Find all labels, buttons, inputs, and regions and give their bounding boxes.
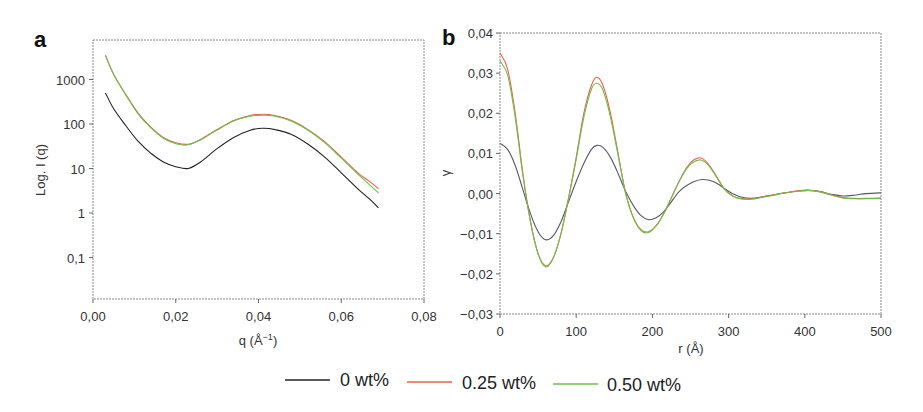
x-tick-label: 0,08 [411,309,436,324]
y-tick-label: 0,1 [67,251,85,266]
x-tick-label: 100 [565,324,587,339]
y-tick-label: 1000 [56,73,85,88]
x-tick-label: 0,00 [80,309,105,324]
legend-item-025wt: 0.25 wt% [407,373,536,393]
panel-b: b 0,040,030,020,010,00−0,01−0,02−0,03 01… [438,25,892,356]
x-tick-label: 200 [642,324,664,339]
legend-label-050wt: 0.50 wt% [607,375,681,395]
legend-item-0wt: 0 wt% [285,370,389,390]
y-tick-label: 10 [71,162,85,177]
series-line-2 [500,61,881,267]
series-line-0 [500,143,881,239]
series-line-0 [105,93,378,208]
panel-a-x-axis: 0,000,020,040,060,08 [80,299,436,324]
y-tick-label: 0,01 [468,146,493,161]
x-tick-label: 300 [718,324,740,339]
panel-a-label: a [34,27,47,52]
y-tick-label: 0,04 [468,26,493,41]
legend-item-050wt: 0.50 wt% [553,375,681,395]
legend: 0 wt% 0.25 wt% 0.50 wt% [285,370,681,395]
x-tick-label: 500 [870,324,892,339]
panel-b-y-axis-title: γ [438,169,453,176]
figure: a 0,11101001000 0,000,020,040,060,08 Log… [0,0,923,412]
panel-a-plot-frame [93,40,424,299]
x-tick-label: 0 [496,324,503,339]
panel-a: a 0,11101001000 0,000,020,040,060,08 Log… [33,27,437,348]
panel-a-x-axis-title: q (Å−1) [239,332,277,348]
y-tick-label: −0,01 [460,227,493,242]
y-tick-label: 1 [78,206,85,221]
legend-label-0wt: 0 wt% [340,370,389,390]
series-line-2 [105,55,378,193]
panel-b-y-axis: 0,040,030,020,010,00−0,01−0,02−0,03 [460,26,500,322]
y-tick-label: 0,02 [468,106,493,121]
x-tick-label: 0,04 [246,309,271,324]
y-tick-label: 0,03 [468,66,493,81]
y-tick-label: 100 [63,117,85,132]
panel-a-y-axis: 0,11101001000 [56,73,93,266]
panel-a-y-axis-title: Log. I (q) [33,144,48,196]
legend-label-025wt: 0.25 wt% [462,373,536,393]
panel-b-plot-frame [500,33,881,314]
x-tick-label: 0,02 [163,309,188,324]
y-tick-label: −0,03 [460,307,493,322]
y-tick-label: 0,00 [468,187,493,202]
x-tick-label: 400 [794,324,816,339]
panel-b-label: b [442,25,455,50]
panel-b-x-axis: 0100200300400500 [496,314,891,339]
series-line-1 [500,53,881,266]
panel-a-series [105,55,378,208]
y-tick-label: −0,02 [460,267,493,282]
panel-b-x-axis-title: r (Å) [678,341,703,356]
panel-b-series [500,53,881,267]
x-tick-label: 0,06 [329,309,354,324]
